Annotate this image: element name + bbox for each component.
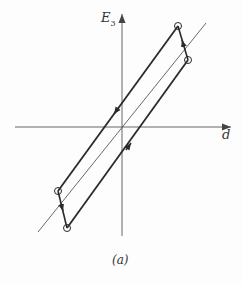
arrow-down-left-icon (114, 107, 119, 114)
arrow-up-icon (182, 40, 184, 47)
x-axis-label: d (222, 127, 230, 142)
arrow-down-icon (61, 204, 63, 211)
figure-canvas: E3 d (a) (0, 0, 243, 283)
loop-lower-edge (67, 60, 188, 228)
figure-caption: (a) (112, 253, 129, 267)
y-axis-label: E3 (101, 10, 116, 28)
diagram-svg (0, 0, 243, 283)
